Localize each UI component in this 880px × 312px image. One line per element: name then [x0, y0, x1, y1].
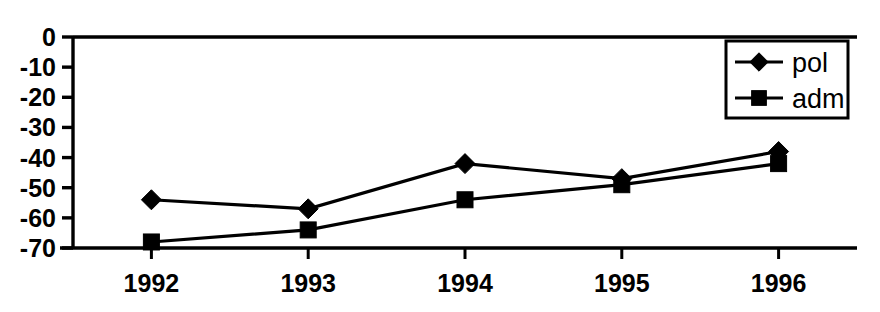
y-axis-tick-label: -70: [20, 234, 56, 262]
y-axis-tick-label: -20: [20, 83, 56, 111]
x-axis-tick-label: 1992: [124, 269, 180, 297]
x-axis-tick-label: 1994: [437, 269, 493, 297]
diamond-marker: [455, 154, 475, 174]
square-marker: [771, 156, 787, 172]
square-marker: [614, 177, 630, 193]
y-axis-tick-label: -30: [20, 113, 56, 141]
square-marker: [752, 91, 767, 106]
x-axis-tick-label: 1993: [280, 269, 336, 297]
diamond-marker: [298, 199, 318, 219]
legend-label: adm: [792, 84, 845, 114]
x-axis-tick-label: 1996: [751, 269, 807, 297]
square-marker: [457, 192, 473, 208]
square-marker: [143, 234, 159, 250]
legend: poladm: [726, 41, 848, 118]
y-axis-tick-label: -40: [20, 144, 56, 172]
diamond-marker: [141, 190, 161, 210]
y-axis-tick-label: 0: [42, 23, 56, 51]
y-axis-tick-label: -10: [20, 53, 56, 81]
x-axis-tick-label: 1995: [594, 269, 650, 297]
y-axis-tick-label: -60: [20, 204, 56, 232]
legend-label: pol: [792, 48, 828, 78]
line-chart: 0-10-20-30-40-50-60-70199219931994199519…: [0, 0, 880, 312]
chart-canvas: 0-10-20-30-40-50-60-70199219931994199519…: [0, 0, 880, 312]
y-axis-tick-label: -50: [20, 174, 56, 202]
square-marker: [300, 222, 316, 238]
